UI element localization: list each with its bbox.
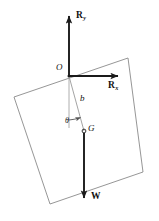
origin-label: O [56, 63, 63, 72]
free-body-diagram: Ry Rx O b θ G W [0, 0, 159, 221]
reaction-horizontal-label: Rx [108, 81, 118, 91]
weight-label: W [91, 192, 101, 202]
diagram-canvas [0, 0, 159, 221]
origin-point [68, 75, 71, 78]
reaction-vertical-subscript: y [83, 14, 86, 21]
angle-arc-theta [69, 118, 81, 121]
moment-arm-line-b [70, 78, 85, 131]
block-outline [14, 58, 143, 204]
angle-theta-label: θ [65, 117, 69, 125]
distance-b-label: b [80, 94, 85, 103]
reaction-vertical-label: Ry [76, 11, 86, 21]
reaction-horizontal-subscript: x [115, 84, 118, 91]
center-of-gravity-label: G [88, 124, 95, 133]
